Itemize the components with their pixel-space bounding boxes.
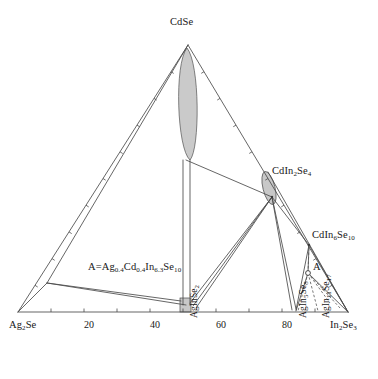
right-edge-tick-3 (233, 125, 236, 127)
axis-tick-label-60: 60 (216, 320, 226, 330)
phase-diagram-canvas (0, 0, 378, 379)
tie-line-4 (18, 283, 47, 312)
solid-solution-regions (179, 48, 279, 312)
right-edge-tick-8 (313, 259, 316, 261)
vertex-label-cdse: CdSe (170, 17, 193, 28)
left-edge-tick-2 (52, 259, 55, 261)
left-edge-tick-4 (86, 205, 89, 207)
compound-agin11se17-label: AgIn11Se17 (322, 274, 332, 318)
axis-tick-label-20: 20 (84, 320, 94, 330)
point-A-marker (306, 271, 311, 276)
compound-cdin6se10-marker (308, 244, 310, 246)
right-edge-tick-6 (281, 205, 284, 207)
left-edge-tick-1 (35, 285, 38, 287)
left-edge-tick-3 (69, 232, 72, 234)
compound-aginse2-label: AgInSe2 (190, 285, 200, 318)
left-edge-tick-5 (103, 179, 106, 181)
tie-line-10 (190, 197, 272, 303)
tie-line-13 (272, 197, 296, 309)
cdse-solid-solution (179, 48, 198, 160)
tie-line-3 (47, 45, 188, 283)
ternary-phase-diagram: CdSe Ag2Se In2Se3 20406080 CdIn2Se4CdIn6… (0, 0, 378, 379)
right-edge-tick-1 (201, 72, 204, 74)
tie-line-6 (47, 283, 186, 305)
compound-cdin2se4-label: CdIn2Se4 (272, 166, 311, 177)
tie-line-12 (196, 197, 272, 308)
tie-line-11 (193, 197, 272, 306)
compound-cdin2se4-marker (271, 196, 273, 198)
compound-cdin6se10-label: CdIn6Se10 (312, 230, 355, 241)
tie-line-7 (186, 160, 272, 197)
left-edge-tick-7 (137, 125, 140, 127)
axis-tick-label-80: 80 (282, 320, 292, 330)
point-label-A: A (313, 262, 321, 273)
compound-agin5se8-label: AgIn5Se8 (299, 281, 309, 318)
left-edge-tick-6 (120, 152, 123, 154)
vertex-label-in2se3: In2Se3 (330, 320, 357, 331)
formula-annotation-A: A=Ag0.4Cd0.4In6.3Se10 (88, 262, 181, 273)
right-edge-tick-4 (249, 152, 252, 154)
vertex-label-ag2se: Ag2Se (9, 320, 36, 331)
tie-line-5 (47, 283, 181, 301)
right-edge-tick-2 (217, 98, 220, 100)
dashed-tie-line-1 (308, 273, 318, 311)
axis-tick-label-40: 40 (150, 320, 160, 330)
